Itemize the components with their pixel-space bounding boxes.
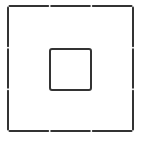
nested-squares-diagram xyxy=(0,0,145,142)
inner-square xyxy=(50,49,91,90)
outer-segmented-square xyxy=(8,6,133,131)
